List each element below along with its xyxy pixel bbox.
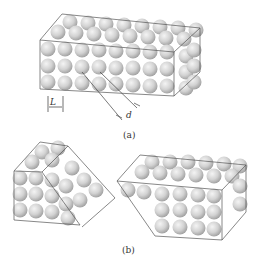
caption-b: (b) bbox=[122, 245, 135, 255]
panel-b-right-block bbox=[117, 155, 248, 241]
caption-a: (a) bbox=[123, 130, 135, 140]
panel-a-block bbox=[40, 14, 204, 120]
label-L: L bbox=[50, 97, 56, 107]
label-d: d bbox=[126, 110, 132, 120]
panel-b-left-block bbox=[13, 141, 116, 228]
